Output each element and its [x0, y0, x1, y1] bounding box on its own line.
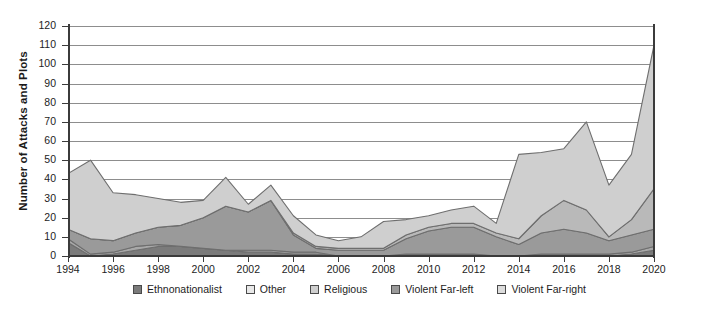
legend-label: Ethnonationalist — [147, 283, 222, 295]
y-tick-label: 20 — [30, 211, 56, 223]
plot-area: 0102030405060708090100110120 — [68, 26, 654, 256]
x-tick-label: 2018 — [597, 263, 620, 275]
x-tick-mark — [384, 257, 385, 262]
legend-item-religious[interactable]: Religious — [310, 283, 367, 295]
x-tick-mark — [609, 257, 610, 262]
x-tick-mark — [68, 257, 69, 262]
x-tick-label: 2006 — [327, 263, 350, 275]
x-tick-label: 1994 — [56, 263, 79, 275]
y-tick-label: 80 — [30, 96, 56, 108]
stacked-area-series — [68, 26, 654, 256]
x-tick-mark — [203, 257, 204, 262]
y-tick-label: 60 — [30, 134, 56, 146]
x-tick-label: 2002 — [237, 263, 260, 275]
x-tick-mark — [654, 257, 655, 262]
legend-label: Religious — [324, 283, 367, 295]
y-tick-label: 40 — [30, 172, 56, 184]
x-tick-mark — [293, 257, 294, 262]
legend-label: Violent Far-left — [405, 283, 473, 295]
y-tick-label: 110 — [30, 38, 56, 50]
legend-label: Violent Far-right — [511, 283, 586, 295]
x-tick-label: 2020 — [642, 263, 665, 275]
x-tick-mark — [429, 257, 430, 262]
y-tick-label: 30 — [30, 192, 56, 204]
right-axis-line — [653, 24, 655, 258]
x-tick-mark — [474, 257, 475, 262]
legend-item-other[interactable]: Other — [246, 283, 286, 295]
x-tick-label: 2008 — [372, 263, 395, 275]
x-tick-label: 2000 — [192, 263, 215, 275]
y-tick-label: 50 — [30, 153, 56, 165]
x-tick-label: 2012 — [462, 263, 485, 275]
legend-swatch-icon — [133, 285, 142, 294]
x-tick-label: 2010 — [417, 263, 440, 275]
y-tick-label: 10 — [30, 230, 56, 242]
x-tick-label: 2004 — [282, 263, 305, 275]
legend-swatch-icon — [497, 285, 506, 294]
x-tick-label: 1998 — [146, 263, 169, 275]
y-tick-label: 90 — [30, 77, 56, 89]
x-tick-mark — [564, 257, 565, 262]
legend-item-violent-far-right[interactable]: Violent Far-right — [497, 283, 586, 295]
x-tick-mark — [519, 257, 520, 262]
y-axis-title: Number of Attacks and Plots — [17, 31, 29, 231]
x-axis: 1994199619982000200220042006200820102012… — [68, 257, 655, 277]
y-axis-line — [68, 24, 70, 258]
x-tick-label: 2016 — [552, 263, 575, 275]
x-tick-mark — [113, 257, 114, 262]
legend-swatch-icon — [391, 285, 400, 294]
y-tick-label: 0 — [30, 249, 56, 261]
legend-swatch-icon — [310, 285, 319, 294]
y-tick-label: 100 — [30, 57, 56, 69]
chart-root: Number of Attacks and Plots 010203040506… — [0, 0, 719, 315]
legend-label: Other — [260, 283, 286, 295]
legend-item-ethnonationalist[interactable]: Ethnonationalist — [133, 283, 222, 295]
y-tick-label: 120 — [30, 19, 56, 31]
x-tick-label: 2014 — [507, 263, 530, 275]
x-tick-label: 1996 — [101, 263, 124, 275]
legend-swatch-icon — [246, 285, 255, 294]
chart-legend: EthnonationalistOtherReligiousViolent Fa… — [0, 283, 719, 295]
y-tick-label: 70 — [30, 115, 56, 127]
x-tick-mark — [338, 257, 339, 262]
x-tick-mark — [158, 257, 159, 262]
legend-item-violent-far-left[interactable]: Violent Far-left — [391, 283, 473, 295]
x-tick-mark — [248, 257, 249, 262]
